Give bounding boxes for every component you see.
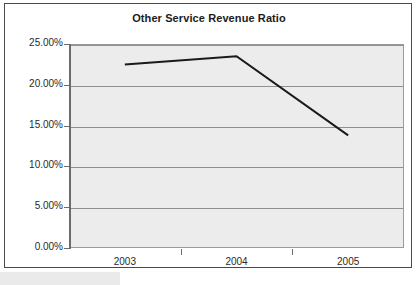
series-polyline-other-service-revenue-ratio bbox=[125, 56, 348, 135]
y-axis-label-5.00%: 5.00% bbox=[35, 200, 63, 211]
x-axis-tick-mark bbox=[292, 249, 293, 255]
y-axis-tick-mark bbox=[64, 248, 69, 249]
x-axis-label-2003: 2003 bbox=[95, 256, 155, 267]
y-axis-label-25.00%: 25.00% bbox=[29, 37, 63, 48]
y-axis-label-0.00%: 0.00% bbox=[35, 241, 63, 252]
y-axis-tick-labels: 0.00%5.00%10.00%15.00%20.00%25.00% bbox=[5, 4, 63, 269]
x-axis-tick-mark bbox=[181, 249, 182, 255]
x-axis-label-2004: 2004 bbox=[207, 256, 267, 267]
chart-frame: Other Service Revenue Ratio 0.00%5.00%10… bbox=[4, 3, 412, 268]
x-axis-label-2005: 2005 bbox=[318, 256, 378, 267]
chart-title: Other Service Revenue Ratio bbox=[5, 12, 413, 24]
y-axis-label-20.00%: 20.00% bbox=[29, 78, 63, 89]
scan-artifact bbox=[0, 272, 120, 285]
y-axis-label-15.00%: 15.00% bbox=[29, 119, 63, 130]
data-series-line bbox=[69, 44, 404, 248]
y-axis-label-10.00%: 10.00% bbox=[29, 159, 63, 170]
